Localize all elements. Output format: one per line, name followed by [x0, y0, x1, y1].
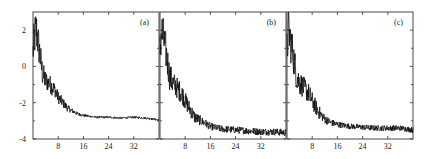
x-tick-label: 8 [56, 142, 60, 151]
x-tick-label: 16 [333, 142, 341, 151]
x-tick-label: 32 [257, 142, 265, 151]
x-tick-label: 24 [359, 142, 367, 151]
series-line-curve-c [287, 12, 413, 133]
x-tick-label: 8 [310, 142, 314, 151]
x-tick-label: 16 [206, 142, 214, 151]
x-tick-label: 16 [79, 142, 87, 151]
y-tick-label: -4 [19, 135, 26, 144]
y-axis-labels: 20-2-4 [19, 26, 26, 144]
series-line-curve-b [160, 18, 286, 136]
x-tick-label: 8 [183, 142, 187, 151]
panel-label: (c) [394, 18, 403, 27]
panels: 8162432(a)8162432(b)8162432(c) [33, 12, 413, 151]
panel-frame [287, 12, 413, 139]
panel-frame [33, 12, 159, 139]
y-tick-label: 0 [22, 62, 26, 71]
x-tick-label: 24 [232, 142, 240, 151]
panel-b: 8162432(b) [160, 12, 286, 151]
series-line-curve-a [33, 17, 159, 121]
panel-a: 8162432(a) [33, 12, 159, 151]
panel-label: (a) [140, 18, 149, 27]
chart-figure: 20-2-4 8162432(a)8162432(b)8162432(c) [0, 0, 428, 159]
panel-frame [160, 12, 286, 139]
panel-label: (b) [267, 18, 277, 27]
y-tick-label: -2 [19, 99, 26, 108]
x-tick-label: 32 [384, 142, 392, 151]
x-tick-label: 24 [105, 142, 113, 151]
x-tick-label: 32 [130, 142, 138, 151]
y-tick-label: 2 [22, 26, 26, 35]
panel-c: 8162432(c) [287, 12, 413, 151]
